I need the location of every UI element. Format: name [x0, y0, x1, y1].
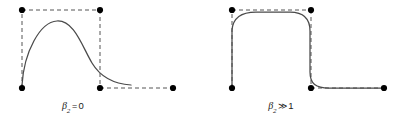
- control-point: [170, 85, 176, 91]
- control-point: [97, 7, 103, 13]
- control-point: [229, 85, 235, 91]
- caption-operator: ≫: [277, 101, 288, 111]
- caption-subscript: 2: [273, 107, 277, 115]
- caption-value: 1: [288, 100, 293, 111]
- panel-left-graphic: [19, 7, 176, 91]
- spline-curve-right: [232, 12, 381, 88]
- panel-left-control-points: [19, 7, 176, 91]
- panel-right-graphic: [229, 7, 387, 91]
- panel-left-control-polygon: [22, 10, 173, 88]
- panel-left-caption: β2=0: [62, 101, 84, 114]
- panel-right-caption: β2≫1: [268, 101, 294, 114]
- control-point: [19, 85, 25, 91]
- spline-curve-left: [22, 21, 131, 85]
- control-point: [229, 7, 235, 13]
- caption-value: 0: [78, 100, 83, 111]
- control-point: [19, 7, 25, 13]
- caption-subscript: 2: [67, 107, 71, 115]
- control-point: [97, 85, 103, 91]
- control-point: [308, 7, 314, 13]
- control-point: [381, 85, 387, 91]
- figure-container: β2=0 β2≫1: [0, 0, 409, 127]
- control-point: [308, 85, 314, 91]
